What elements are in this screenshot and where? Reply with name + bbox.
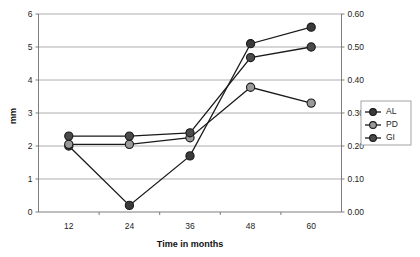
data-point-al — [186, 152, 194, 160]
left-axis-tick-label: 0 — [28, 207, 33, 217]
x-axis-tick-label: 48 — [246, 221, 256, 231]
x-axis-tick-label: 24 — [125, 221, 135, 231]
left-axis-tick-label: 4 — [28, 75, 33, 85]
chart-background — [0, 0, 420, 257]
right-axis-tick-label: 0.40 — [348, 75, 365, 85]
x-axis-tick-label: 36 — [185, 221, 195, 231]
data-point-pd — [65, 140, 73, 148]
chart-container: 0123456 0.000.100.200.300.400.500.60 122… — [0, 0, 420, 257]
chart-legend: ALPDGI — [361, 101, 411, 145]
data-point-al — [307, 23, 315, 31]
data-point-gi — [125, 132, 133, 140]
legend-marker-al — [370, 109, 377, 116]
left-axis-tick-label: 6 — [28, 9, 33, 19]
data-point-pd — [307, 99, 315, 107]
x-axis-tick-label: 60 — [306, 221, 316, 231]
data-point-al — [247, 40, 255, 48]
legend-label-pd: PD — [386, 119, 398, 129]
left-axis-tick-label: 3 — [28, 108, 33, 118]
right-axis-tick-label: 0.10 — [348, 174, 365, 184]
left-axis-tick-label: 2 — [28, 141, 33, 151]
data-point-gi — [186, 129, 194, 137]
data-point-gi — [247, 53, 255, 61]
x-axis-tick-label: 12 — [64, 221, 74, 231]
legend-label-gi: GI — [386, 132, 395, 142]
data-point-al — [125, 201, 133, 209]
data-point-pd — [247, 83, 255, 91]
legend-label-al: AL — [386, 106, 397, 116]
data-point-pd — [125, 140, 133, 148]
right-axis-tick-label: 0.50 — [348, 42, 365, 52]
line-chart: 0123456 0.000.100.200.300.400.500.60 122… — [0, 0, 420, 257]
right-axis-tick-label: 0.60 — [348, 9, 365, 19]
right-axis-tick-label: 0.00 — [348, 207, 365, 217]
data-point-gi — [65, 132, 73, 140]
y-axis-title: mm — [8, 108, 18, 124]
x-axis-title: Time in months — [157, 239, 223, 249]
left-axis-tick-label: 1 — [28, 174, 33, 184]
legend-marker-pd — [370, 122, 377, 129]
data-point-gi — [307, 43, 315, 51]
legend-marker-gi — [370, 135, 377, 142]
left-axis-tick-label: 5 — [28, 42, 33, 52]
